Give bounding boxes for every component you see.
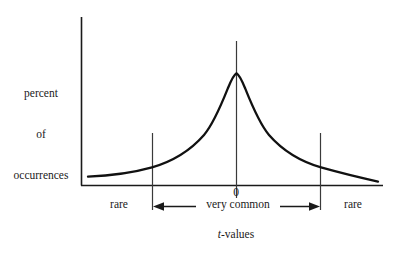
span-arrowhead-left	[153, 202, 164, 210]
annotation-rare-right: rare	[330, 198, 376, 212]
annotation-very-common: very common	[196, 198, 280, 212]
annotation-rare-left: rare	[96, 198, 142, 212]
x-axis-label: t-values	[176, 228, 296, 242]
y-axis-label-line-1: percent	[8, 87, 74, 101]
y-axis-label-line-2: of	[8, 128, 74, 142]
y-axis-label: percent of occurrences	[8, 60, 74, 209]
y-axis-label-line-3: occurrences	[8, 169, 74, 183]
x-axis-label-rest: -values	[221, 228, 254, 240]
t-distribution-figure: percent of occurrences 0 rare very commo…	[0, 0, 394, 255]
distribution-curve	[88, 73, 378, 181]
span-arrowhead-right	[309, 202, 320, 210]
